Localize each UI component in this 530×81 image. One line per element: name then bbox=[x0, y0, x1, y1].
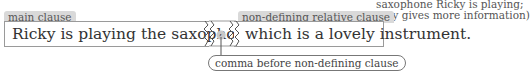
comma-callout: comma before non-defining clause bbox=[208, 55, 406, 71]
comma-mark: , bbox=[219, 26, 222, 37]
